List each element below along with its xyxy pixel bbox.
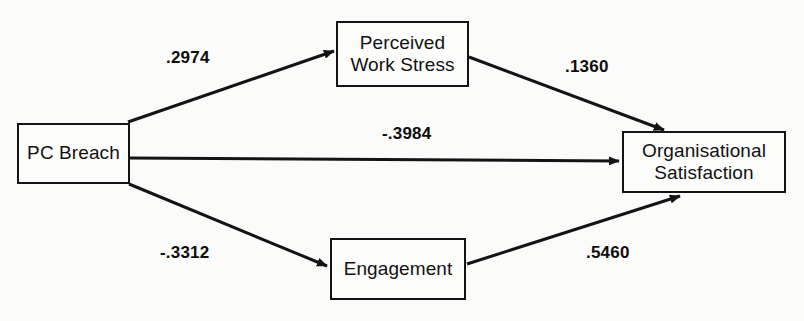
node-organisational-satisfaction: Organisational Satisfaction [622, 131, 786, 193]
node-pc-breach-label: PC Breach [27, 142, 120, 164]
arrow-engagement-to-satisfaction [467, 196, 680, 264]
coefficient-pc-breach-to-engagement: -.3312 [160, 243, 209, 263]
coefficient-stress-to-satisfaction: .1360 [565, 57, 609, 77]
coefficient-pc-breach-to-satisfaction: -.3984 [382, 124, 431, 144]
node-perceived-work-stress: Perceived Work Stress [336, 21, 469, 87]
arrow-pc-breach-to-satisfaction [130, 158, 619, 161]
arrow-pc-breach-to-stress [128, 51, 334, 122]
node-perceived-work-stress-label-line1: Perceived [350, 32, 454, 54]
arrow-pc-breach-to-engagement [129, 184, 327, 266]
path-analysis-figure: PC Breach Perceived Work Stress Engageme… [0, 0, 804, 321]
node-perceived-work-stress-label-line2: Work Stress [350, 54, 454, 76]
coefficient-engagement-to-satisfaction: .5460 [586, 243, 630, 263]
node-organisational-satisfaction-label-line2: Satisfaction [642, 162, 766, 184]
node-pc-breach: PC Breach [17, 123, 130, 184]
node-engagement-label: Engagement [344, 258, 453, 280]
coefficient-pc-breach-to-stress: .2974 [166, 48, 210, 68]
node-organisational-satisfaction-label-line1: Organisational [642, 140, 766, 162]
node-engagement: Engagement [330, 238, 466, 300]
